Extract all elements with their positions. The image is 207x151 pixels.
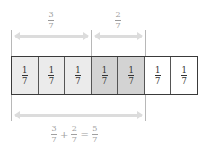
denominator: 7 [49,77,54,86]
unit-fraction: 1 7 [75,66,81,86]
equals-sign: = [80,129,88,140]
cell-2: 1 7 [39,57,66,94]
equation-result: 5 7 [92,125,98,144]
tick-middle [91,30,92,56]
numerator: 2 [72,125,77,133]
numerator: 1 [49,66,54,75]
equation-term-b: 2 7 [71,125,77,144]
tick-bottom-right [145,95,146,121]
numerator: 1 [155,66,160,75]
denominator: 7 [22,77,27,86]
arrow-two-sevenths [95,35,142,38]
cell-6: 1 7 [145,57,172,94]
unit-fraction: 1 7 [48,66,54,86]
denominator: 7 [92,136,97,144]
tick-left [11,30,12,56]
cell-1: 1 7 [12,57,39,94]
arrow-five-sevenths [15,114,142,117]
denominator: 7 [155,77,160,86]
denominator: 7 [182,77,187,86]
unit-fraction: 1 7 [22,66,28,86]
numerator: 1 [22,66,27,75]
tick-right [145,30,146,56]
numerator: 3 [51,125,56,133]
numerator: 1 [102,66,107,75]
unit-fraction: 1 7 [181,66,187,86]
denominator: 7 [51,136,56,144]
numerator: 3 [48,11,53,19]
numerator: 5 [92,125,97,133]
label-three-sevenths: 3 7 [48,11,54,30]
unit-fraction: 1 7 [102,66,108,86]
denominator: 7 [102,77,107,86]
cell-3: 1 7 [65,57,92,94]
arrow-three-sevenths [15,35,88,38]
fraction-strip: 1 7 1 7 1 7 1 7 1 7 1 [11,56,198,95]
numerator: 2 [115,11,120,19]
cell-7: 1 7 [171,57,197,94]
denominator: 7 [48,22,53,30]
equation-term-a: 3 7 [51,125,57,144]
numerator: 1 [128,66,133,75]
unit-fraction: 1 7 [155,66,161,86]
denominator: 7 [75,77,80,86]
numerator: 1 [75,66,80,75]
cell-4: 1 7 [92,57,119,94]
denominator: 7 [128,77,133,86]
tick-bottom-left [11,95,12,121]
plus-sign: + [60,129,68,140]
label-two-sevenths: 2 7 [115,11,121,30]
denominator: 7 [115,22,120,30]
denominator: 7 [72,136,77,144]
numerator: 1 [182,66,187,75]
equation: 3 7 + 2 7 = 5 7 [51,125,98,144]
cell-5: 1 7 [118,57,145,94]
unit-fraction: 1 7 [128,66,134,86]
